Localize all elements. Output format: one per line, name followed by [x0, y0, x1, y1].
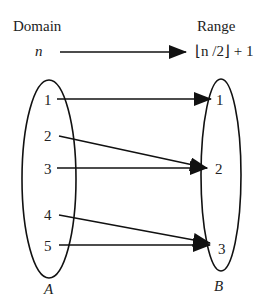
set-a-element-2: 2 — [44, 128, 52, 144]
function-mapping-diagram: Domain Range n ⌊n /2⌋ + 1 1 2 3 4 5 1 2 … — [0, 0, 268, 308]
arrow-4-to-3 — [59, 215, 210, 243]
set-b-name: B — [214, 278, 223, 294]
set-a-element-1: 1 — [44, 92, 52, 108]
set-a-element-5: 5 — [44, 238, 52, 254]
set-a-name: A — [43, 281, 54, 297]
domain-label: Domain — [13, 18, 62, 34]
arrow-2-to-2 — [59, 136, 207, 168]
range-expression: ⌊n /2⌋ + 1 — [195, 43, 253, 59]
set-a-element-4: 4 — [44, 207, 52, 223]
domain-variable: n — [35, 43, 43, 59]
set-b-element-2: 2 — [215, 161, 223, 177]
set-b-element-3: 3 — [218, 241, 226, 257]
set-a-element-3: 3 — [44, 161, 52, 177]
set-b-element-1: 1 — [216, 92, 224, 108]
range-label: Range — [197, 18, 236, 34]
